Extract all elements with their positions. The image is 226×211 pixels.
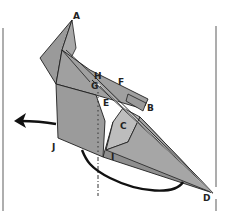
swing-arrow-upper-segment	[20, 121, 56, 124]
label-h: H	[94, 71, 102, 81]
label-a: A	[73, 11, 80, 21]
origami-diagram: A B C D E F G H I J	[0, 0, 226, 211]
label-f: F	[118, 77, 124, 87]
label-c: C	[120, 121, 127, 131]
label-d: D	[203, 193, 210, 203]
label-b: B	[147, 103, 154, 113]
label-j: J	[51, 142, 55, 152]
label-g: G	[91, 81, 98, 91]
label-e: E	[103, 98, 109, 108]
label-i: I	[111, 152, 114, 162]
